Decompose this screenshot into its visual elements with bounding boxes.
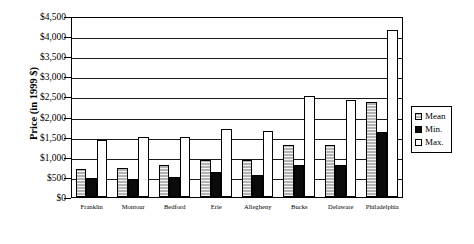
y-axis-tickmark: [64, 77, 71, 78]
y-axis-tick-label: $3,000: [4, 72, 66, 82]
bar-group: [280, 18, 322, 197]
y-axis-tick-label: $2,500: [4, 92, 66, 102]
legend-swatch-icon: [415, 113, 422, 120]
y-axis-tick-label: $0: [4, 193, 66, 203]
bar-max: [138, 137, 148, 197]
bar-group: [238, 18, 280, 197]
y-axis-tickmark: [64, 57, 71, 58]
bar-max: [387, 30, 397, 197]
y-axis-tick-label: $500: [4, 173, 66, 183]
y-axis-tick-label: $1,500: [4, 133, 66, 143]
x-axis-tick-label: Bedford: [164, 203, 186, 210]
y-axis-tickmark: [64, 17, 71, 18]
x-axis-tick-label: Philadelphia: [366, 203, 399, 210]
bar-mean: [200, 160, 210, 197]
bar-max: [346, 100, 356, 197]
y-axis-tickmark: [64, 158, 71, 159]
y-axis-tickmark: [64, 37, 71, 38]
plot-area: [71, 17, 403, 198]
bar-group: [363, 18, 404, 197]
legend-swatch-icon: [415, 126, 422, 133]
bar-mean: [325, 145, 335, 197]
bar-group: [114, 18, 156, 197]
legend-item: Mean: [415, 110, 446, 123]
bar-mean: [76, 169, 86, 197]
bar-min: [128, 179, 138, 197]
bar-max: [304, 96, 314, 197]
y-axis-tickmark: [64, 97, 71, 98]
x-axis-tick-label: Montour: [122, 203, 145, 210]
legend-label: Mean: [425, 112, 446, 121]
bar-max: [263, 131, 273, 197]
bar-max: [97, 140, 107, 197]
bar-min: [335, 165, 345, 197]
x-axis-tick-label: Erie: [211, 203, 222, 210]
x-axis-tick-labels: FranklinMontourBedfordErieAlleghenyBucks…: [71, 203, 403, 223]
legend-item: Max.: [415, 136, 446, 149]
bar-max: [221, 129, 231, 197]
legend-label: Min.: [425, 125, 442, 134]
x-axis-tick-label: Delaware: [328, 203, 353, 210]
y-axis-tick-label: $3,500: [4, 52, 66, 62]
bars-layer: [72, 18, 402, 197]
y-axis-tickmark: [64, 198, 71, 199]
y-axis-tickmark: [64, 138, 71, 139]
y-axis-tick-label: $1,000: [4, 153, 66, 163]
legend-item: Min.: [415, 123, 446, 136]
bar-min: [86, 178, 96, 197]
bar-group: [197, 18, 239, 197]
bar-min: [169, 177, 179, 197]
y-axis-tick-label: $4,500: [4, 12, 66, 22]
x-axis-tick-label: Franklin: [81, 203, 103, 210]
bar-max: [180, 137, 190, 197]
bar-group: [321, 18, 363, 197]
bar-group: [155, 18, 197, 197]
y-axis-tick-label: $2,000: [4, 113, 66, 123]
bar-mean: [159, 165, 169, 197]
bar-mean: [117, 168, 127, 197]
x-axis-tick-label: Allegheny: [244, 203, 271, 210]
y-axis-tick-label: $4,000: [4, 32, 66, 42]
bar-mean: [242, 160, 252, 197]
bar-mean: [366, 102, 376, 197]
chart-legend: MeanMin.Max.: [411, 106, 452, 153]
bar-group: [72, 18, 114, 197]
bar-min: [377, 132, 387, 197]
y-axis-tickmark: [64, 118, 71, 119]
bar-chart: Price (in 1999 $) $4,500$4,000$3,500$3,0…: [0, 0, 474, 244]
legend-label: Max.: [425, 138, 444, 147]
y-axis-tickmark: [64, 178, 71, 179]
legend-swatch-icon: [415, 139, 422, 146]
bar-min: [294, 165, 304, 197]
bar-min: [252, 175, 262, 197]
bar-min: [211, 172, 221, 197]
bar-mean: [283, 145, 293, 197]
y-axis-tick-labels: $4,500$4,000$3,500$3,000$2,500$2,000$1,5…: [0, 0, 66, 244]
x-axis-tick-label: Bucks: [291, 203, 307, 210]
